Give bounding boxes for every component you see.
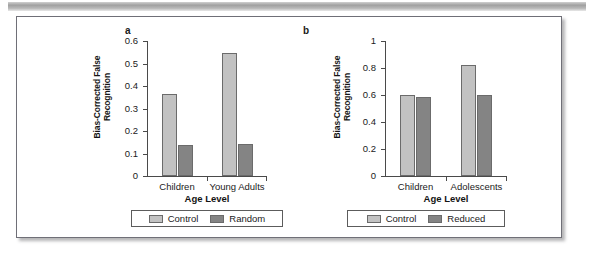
y-axis-title-a: Bias-Corrected False Recognition bbox=[93, 35, 111, 159]
bar-a-children-random bbox=[178, 145, 193, 177]
chart-panel-b: b Bias-Corrected False Recognition Age L… bbox=[285, 17, 515, 237]
y-tick-a-6: 0.6 bbox=[143, 41, 147, 42]
y-tick-a-5: 0.5 bbox=[143, 64, 147, 65]
y-tick-a-0: 0 bbox=[143, 176, 147, 177]
y-tick-label-a-3: 0.3 bbox=[125, 103, 138, 114]
legend-item-reduced-b[interactable]: Reduced bbox=[428, 213, 485, 224]
bar-b-children-reduced bbox=[416, 97, 431, 176]
legend-item-random-a[interactable]: Random bbox=[210, 213, 265, 224]
x-tick-label-b-0: Children bbox=[398, 181, 433, 192]
y-tick-a-2: 0.2 bbox=[143, 131, 147, 132]
y-tick-a-4: 0.4 bbox=[143, 86, 147, 87]
bar-b-adolescents-reduced bbox=[477, 95, 492, 176]
x-tick-b-1 bbox=[506, 177, 507, 181]
legend-a: Control Random bbox=[131, 210, 283, 227]
y-tick-b-4: 0.8 bbox=[381, 68, 385, 69]
legend-label-random-a: Random bbox=[229, 213, 265, 224]
y-tick-a-1: 0.1 bbox=[143, 154, 147, 155]
y-axis-line-b bbox=[385, 41, 386, 177]
legend-swatch-reduced-b bbox=[428, 215, 442, 223]
y-tick-label-a-1: 0.1 bbox=[125, 148, 138, 159]
chart-panel-a: a Bias-Corrected False Recognition Age L… bbox=[79, 17, 291, 237]
figure-frame: a Bias-Corrected False Recognition Age L… bbox=[16, 16, 562, 238]
y-tick-label-b-4: 0.8 bbox=[363, 62, 376, 73]
scan-artifact-band bbox=[8, 2, 586, 11]
x-tick-label-a-1: Young Adults bbox=[209, 181, 264, 192]
legend-item-control-a[interactable]: Control bbox=[149, 213, 199, 224]
y-tick-b-5: 1 bbox=[381, 41, 385, 42]
bar-b-children-control bbox=[400, 95, 415, 176]
panel-label-b: b bbox=[303, 25, 309, 36]
figure-page: a Bias-Corrected False Recognition Age L… bbox=[0, 0, 591, 256]
legend-swatch-random-a bbox=[210, 215, 224, 223]
y-tick-label-a-6: 0.6 bbox=[125, 35, 138, 46]
legend-swatch-control-b bbox=[367, 215, 381, 223]
x-tick-label-a-0: Children bbox=[159, 181, 194, 192]
legend-swatch-control-a bbox=[149, 215, 163, 223]
x-tick-b-0 bbox=[446, 177, 447, 181]
x-axis-title-b: Age Level bbox=[385, 193, 507, 204]
bar-a-children-control bbox=[162, 94, 177, 176]
y-tick-label-b-3: 0.6 bbox=[363, 89, 376, 100]
y-tick-label-b-2: 0.4 bbox=[363, 116, 376, 127]
y-tick-label-a-5: 0.5 bbox=[125, 58, 138, 69]
y-tick-b-2: 0.4 bbox=[381, 122, 385, 123]
y-tick-label-b-5: 1 bbox=[371, 35, 376, 46]
y-tick-label-b-0: 0 bbox=[371, 170, 376, 181]
bar-a-young-adults-random bbox=[238, 144, 253, 176]
x-tick-a-1 bbox=[266, 177, 267, 181]
x-axis-title-a: Age Level bbox=[147, 193, 267, 204]
y-tick-label-a-0: 0 bbox=[133, 170, 138, 181]
legend-item-control-b[interactable]: Control bbox=[367, 213, 417, 224]
bar-b-adolescents-control bbox=[461, 65, 476, 176]
y-tick-label-a-2: 0.2 bbox=[125, 125, 138, 136]
y-tick-b-3: 0.6 bbox=[381, 95, 385, 96]
y-axis-line-a bbox=[147, 41, 148, 177]
y-tick-b-1: 0.2 bbox=[381, 149, 385, 150]
x-tick-a-0 bbox=[207, 177, 208, 181]
panels-container: a Bias-Corrected False Recognition Age L… bbox=[17, 17, 561, 237]
bar-a-young-adults-control bbox=[222, 53, 237, 176]
legend-label-reduced-b: Reduced bbox=[447, 213, 485, 224]
legend-label-control-b: Control bbox=[386, 213, 417, 224]
legend-b: Control Reduced bbox=[347, 210, 505, 227]
legend-label-control-a: Control bbox=[168, 213, 199, 224]
plot-area-b: Age Level 00.20.40.60.81ChildrenAdolesce… bbox=[385, 41, 507, 177]
plot-area-a: Age Level 00.10.20.30.40.50.6ChildrenYou… bbox=[147, 41, 267, 177]
y-axis-title-b: Bias-Corrected False Recognition bbox=[333, 35, 351, 159]
y-tick-label-b-1: 0.2 bbox=[363, 143, 376, 154]
y-tick-a-3: 0.3 bbox=[143, 109, 147, 110]
y-tick-b-0: 0 bbox=[381, 176, 385, 177]
y-tick-label-a-4: 0.4 bbox=[125, 80, 138, 91]
x-tick-label-b-1: Adolescents bbox=[451, 181, 503, 192]
